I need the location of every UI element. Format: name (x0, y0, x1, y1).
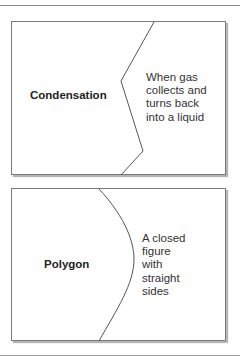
definition-line: with (142, 258, 202, 271)
definition-line: A closed (142, 232, 202, 245)
vocabulary-card-polygon: Polygon A closed figure with straight si… (11, 188, 226, 341)
vocabulary-card-condensation: Condensation When gas collects and turns… (11, 21, 226, 175)
card-definition: A closed figure with straight sides (142, 232, 202, 298)
definition-line: turns back (146, 97, 226, 110)
definition-line: When gas (146, 71, 226, 84)
bottom-rule (0, 355, 240, 356)
card-definition: When gas collects and turns back into a … (146, 71, 226, 124)
top-rule (0, 5, 240, 6)
definition-line: figure (142, 245, 202, 258)
definition-line: into a liquid (146, 111, 226, 124)
card-term: Polygon (44, 258, 89, 270)
card-term: Condensation (30, 89, 107, 101)
definition-line: straight (142, 272, 202, 285)
definition-line: collects and (146, 84, 226, 97)
definition-line: sides (142, 285, 202, 298)
